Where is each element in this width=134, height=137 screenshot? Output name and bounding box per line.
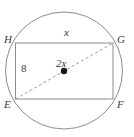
vertex-label-G: G [117, 34, 125, 45]
vertex-label-H: H [4, 34, 12, 45]
vertex-label-E: E [4, 99, 11, 110]
geometry-figure: H G E F x 8 2x [0, 0, 134, 137]
center-measure-label: 2x [56, 58, 66, 69]
vertex-label-F: F [117, 99, 124, 110]
left-side-length-label: 8 [21, 63, 27, 74]
top-side-length-label: x [64, 27, 69, 38]
